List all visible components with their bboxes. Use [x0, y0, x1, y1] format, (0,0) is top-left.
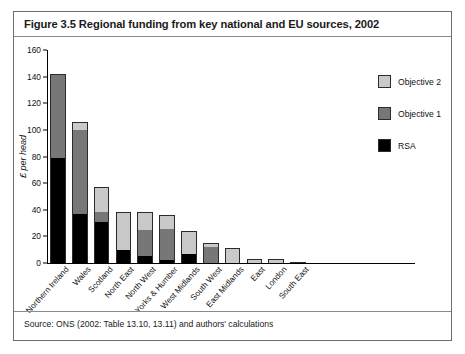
chart-legend: Objective 2Objective 1RSA	[378, 75, 441, 171]
figure-container: Figure 3.5 Regional funding from key nat…	[0, 0, 465, 354]
y-tick-mark	[43, 263, 47, 264]
bar-west-midlands	[181, 231, 197, 263]
title-divider	[14, 36, 451, 37]
bar-wales	[72, 122, 88, 263]
bar-scotland	[94, 187, 110, 263]
legend-item: RSA	[378, 139, 441, 152]
bar-segment-objective-1	[95, 212, 109, 223]
bar-segment-rsa	[51, 158, 65, 263]
bar-segment-objective-2	[160, 216, 174, 229]
bar-north-east	[116, 212, 132, 263]
x-axis-labels: Northern IrelandWalesScotlandNorth EastN…	[47, 265, 415, 310]
bar-segment-objective-1	[160, 229, 174, 260]
bar-segment-rsa	[138, 256, 152, 263]
y-tick-mark	[43, 103, 47, 104]
y-axis-label: £ per head	[16, 50, 30, 263]
y-tick-mark	[43, 156, 47, 157]
bar-segment-objective-1	[73, 130, 87, 215]
bar-north-west	[137, 212, 153, 263]
bar-segment-rsa	[182, 254, 196, 263]
bar-segment-objective-2	[269, 260, 283, 263]
bar-segment-objective-2	[95, 188, 109, 212]
bar-segment-objective-1	[51, 75, 65, 158]
bar-yorks-humber	[159, 215, 175, 263]
legend-label: Objective 2	[398, 77, 441, 87]
y-tick-mark	[43, 209, 47, 210]
bar-segment-objective-1	[204, 247, 218, 263]
bar-london	[268, 259, 284, 263]
figure-title: Figure 3.5 Regional funding from key nat…	[24, 18, 379, 30]
bar-segment-objective-2	[182, 232, 196, 254]
y-tick-mark	[43, 183, 47, 184]
legend-item: Objective 2	[378, 75, 441, 88]
bar-segment-objective-2	[226, 249, 240, 263]
bar-segment-objective-1	[138, 230, 152, 256]
x-axis-line	[47, 263, 415, 264]
source-note: Source: ONS (2002: Table 13.10, 13.11) a…	[24, 319, 273, 329]
bar-segment-objective-2	[138, 213, 152, 230]
bar-segment-objective-2	[73, 123, 87, 130]
y-tick-mark	[43, 129, 47, 130]
legend-swatch-icon	[378, 139, 391, 152]
y-tick-mark	[43, 236, 47, 237]
bar-segment-rsa	[95, 222, 109, 263]
bar-segment-rsa	[160, 260, 174, 263]
bar-segment-rsa	[73, 214, 87, 263]
bar-east-midlands	[225, 248, 241, 263]
bar-east	[247, 259, 263, 263]
y-tick-mark	[43, 76, 47, 77]
legend-swatch-icon	[378, 107, 391, 120]
legend-label: Objective 1	[398, 109, 441, 119]
legend-item: Objective 1	[378, 107, 441, 120]
y-tick-mark	[43, 50, 47, 51]
source-divider	[14, 311, 451, 312]
bar-segment-objective-2	[248, 260, 262, 263]
legend-label: RSA	[398, 141, 416, 151]
bar-south-west	[203, 243, 219, 263]
legend-swatch-icon	[378, 75, 391, 88]
bar-south-east	[290, 262, 306, 264]
bar-segment-objective-2	[117, 213, 131, 250]
bar-segment-objective-2	[291, 263, 305, 264]
plot-area: 020406080100120140160	[47, 50, 309, 263]
bar-segment-rsa	[117, 250, 131, 263]
bar-northern-ireland	[50, 74, 66, 263]
